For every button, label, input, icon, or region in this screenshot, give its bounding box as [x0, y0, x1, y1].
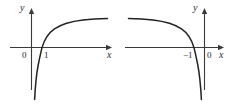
y-axis-label-right: y: [193, 3, 197, 13]
chart-panel-left: y x 0 1: [0, 0, 118, 105]
tick-label-one-left: 1: [44, 51, 49, 60]
two-panel-logarithm-figure: y x 0 1 y x −1 0: [0, 0, 235, 105]
y-axis-arrow-right: [202, 8, 207, 14]
x-axis-label-right: x: [219, 50, 223, 60]
tick-label-minus-one-right: −1: [183, 51, 193, 60]
origin-label-right: 0: [207, 51, 212, 60]
y-axis-arrow-left: [29, 8, 34, 14]
y-axis-label-left: y: [20, 3, 24, 13]
x-axis-label-left: x: [107, 50, 111, 60]
chart-canvas-left: [0, 0, 118, 105]
origin-label-left: 0: [22, 51, 27, 60]
chart-panel-right: y x −1 0: [117, 0, 235, 105]
chart-canvas-right: [117, 0, 235, 105]
